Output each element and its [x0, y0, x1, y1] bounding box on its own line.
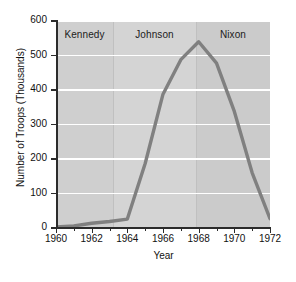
x-tick-label-1966: 1966	[143, 233, 183, 244]
series-layer	[56, 20, 270, 227]
x-tick-label-1972: 1972	[250, 233, 290, 244]
y-tick-200	[51, 158, 56, 160]
y-axis-line	[56, 20, 58, 228]
x-tick-label-1960: 1960	[36, 233, 76, 244]
x-tick-label-1964: 1964	[107, 233, 147, 244]
x-tick-1961	[74, 227, 75, 231]
x-axis-title: Year	[56, 250, 271, 261]
x-tick-label-1970: 1970	[214, 233, 254, 244]
y-tick-100	[51, 193, 56, 195]
y-tick-300	[51, 124, 56, 126]
y-tick-600	[51, 20, 56, 22]
x-tick-1963	[110, 227, 111, 231]
x-tick-1971	[252, 227, 253, 231]
x-tick-label-1962: 1962	[72, 233, 112, 244]
x-tick-1965	[145, 227, 146, 231]
y-tick-label-0: 0	[13, 222, 47, 232]
y-tick-400	[51, 89, 56, 91]
x-tick-label-1968: 1968	[179, 233, 219, 244]
line-series-us-troops	[56, 42, 270, 227]
y-tick-500	[51, 55, 56, 57]
x-tick-1969	[217, 227, 218, 231]
y-axis-title: Number of Troops (Thousands)	[15, 18, 26, 218]
plot-area: Kennedy Johnson Nixon	[56, 20, 270, 227]
x-tick-1967	[181, 227, 182, 231]
chart-container: Kennedy Johnson Nixon 600 500 400 300 20…	[0, 0, 296, 282]
